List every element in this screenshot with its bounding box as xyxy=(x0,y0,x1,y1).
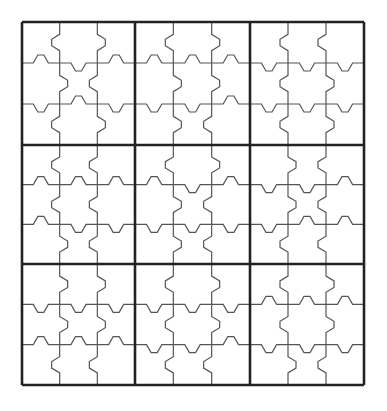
cell-r9-c7[interactable] xyxy=(250,345,288,385)
puzzle-board xyxy=(0,0,387,411)
cell-r8-c8[interactable] xyxy=(288,304,326,344)
cell-r3-c2[interactable] xyxy=(60,104,98,145)
cell-r4-c9[interactable] xyxy=(326,145,364,185)
cell-r1-c6[interactable] xyxy=(212,22,250,63)
cell-r9-c4[interactable] xyxy=(135,345,173,385)
cell-r5-c8[interactable] xyxy=(288,185,326,225)
cell-r8-c2[interactable] xyxy=(60,304,98,344)
cell-r5-c5[interactable] xyxy=(173,185,211,225)
cell-r5-c7[interactable] xyxy=(250,185,288,225)
cell-r7-c4[interactable] xyxy=(135,264,173,304)
cell-r2-c3[interactable] xyxy=(97,63,135,104)
cell-r3-c5[interactable] xyxy=(173,104,211,145)
cell-r4-c7[interactable] xyxy=(250,145,288,185)
cell-r1-c1[interactable] xyxy=(22,22,60,63)
cell-r3-c3[interactable] xyxy=(97,104,135,145)
cell-r5-c9[interactable] xyxy=(326,185,364,225)
cell-r6-c1[interactable] xyxy=(22,224,60,264)
cell-r8-c6[interactable] xyxy=(212,304,250,344)
cell-r3-c6[interactable] xyxy=(212,104,250,145)
cell-r7-c3[interactable] xyxy=(97,264,135,304)
cell-r3-c7[interactable] xyxy=(250,104,288,145)
cell-r3-c4[interactable] xyxy=(135,104,173,145)
cell-r4-c4[interactable] xyxy=(135,145,173,185)
cell-r5-c1[interactable] xyxy=(22,185,60,225)
cell-r9-c1[interactable] xyxy=(22,345,60,385)
cell-r8-c5[interactable] xyxy=(173,304,211,344)
cell-r6-c3[interactable] xyxy=(97,224,135,264)
cell-r7-c9[interactable] xyxy=(326,264,364,304)
cell-r7-c7[interactable] xyxy=(250,264,288,304)
cell-r2-c4[interactable] xyxy=(135,63,173,104)
cell-r7-c6[interactable] xyxy=(212,264,250,304)
cell-r4-c6[interactable] xyxy=(212,145,250,185)
cell-r5-c3[interactable] xyxy=(97,185,135,225)
cell-r9-c3[interactable] xyxy=(97,345,135,385)
cell-r2-c9[interactable] xyxy=(326,63,364,104)
cell-r1-c2[interactable] xyxy=(60,22,98,63)
cell-r9-c8[interactable] xyxy=(288,345,326,385)
cell-r9-c5[interactable] xyxy=(173,345,211,385)
cell-r7-c5[interactable] xyxy=(173,264,211,304)
cell-r1-c4[interactable] xyxy=(135,22,173,63)
cell-r5-c6[interactable] xyxy=(212,185,250,225)
cell-r4-c5[interactable] xyxy=(173,145,211,185)
cell-r6-c4[interactable] xyxy=(135,224,173,264)
cell-r8-c1[interactable] xyxy=(22,304,60,344)
cell-r1-c3[interactable] xyxy=(97,22,135,63)
cell-r6-c9[interactable] xyxy=(326,224,364,264)
cell-r7-c1[interactable] xyxy=(22,264,60,304)
cell-r7-c2[interactable] xyxy=(60,264,98,304)
cell-r2-c7[interactable] xyxy=(250,63,288,104)
cell-r1-c8[interactable] xyxy=(288,22,326,63)
cell-r8-c9[interactable] xyxy=(326,304,364,344)
cell-r2-c1[interactable] xyxy=(22,63,60,104)
cell-r4-c3[interactable] xyxy=(97,145,135,185)
cell-r3-c8[interactable] xyxy=(288,104,326,145)
cell-r7-c8[interactable] xyxy=(288,264,326,304)
cell-r8-c3[interactable] xyxy=(97,304,135,344)
cell-r6-c7[interactable] xyxy=(250,224,288,264)
cell-r5-c2[interactable] xyxy=(60,185,98,225)
cell-r2-c2[interactable] xyxy=(60,63,98,104)
cell-layer[interactable] xyxy=(22,22,364,385)
cell-r9-c2[interactable] xyxy=(60,345,98,385)
cell-r3-c1[interactable] xyxy=(22,104,60,145)
cell-r1-c5[interactable] xyxy=(173,22,211,63)
cell-r3-c9[interactable] xyxy=(326,104,364,145)
cell-r8-c7[interactable] xyxy=(250,304,288,344)
cell-r6-c6[interactable] xyxy=(212,224,250,264)
cell-r4-c1[interactable] xyxy=(22,145,60,185)
cell-r9-c9[interactable] xyxy=(326,345,364,385)
cell-r2-c8[interactable] xyxy=(288,63,326,104)
cell-r6-c5[interactable] xyxy=(173,224,211,264)
cell-r5-c4[interactable] xyxy=(135,185,173,225)
cell-r1-c7[interactable] xyxy=(250,22,288,63)
cell-r4-c8[interactable] xyxy=(288,145,326,185)
cell-r9-c6[interactable] xyxy=(212,345,250,385)
cell-r6-c8[interactable] xyxy=(288,224,326,264)
cell-r8-c4[interactable] xyxy=(135,304,173,344)
cell-r4-c2[interactable] xyxy=(60,145,98,185)
cell-r6-c2[interactable] xyxy=(60,224,98,264)
cell-r2-c6[interactable] xyxy=(212,63,250,104)
cell-r1-c9[interactable] xyxy=(326,22,364,63)
cell-r2-c5[interactable] xyxy=(173,63,211,104)
